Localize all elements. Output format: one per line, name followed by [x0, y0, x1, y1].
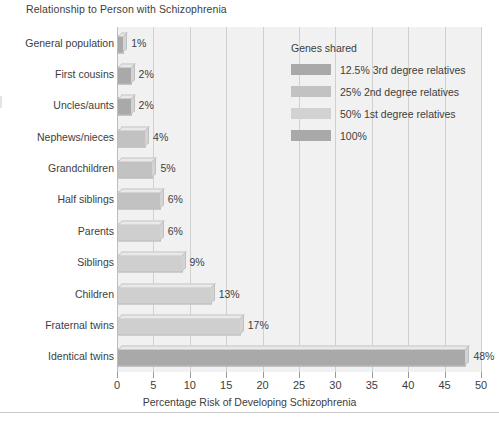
bar-wrapper: [117, 32, 124, 53]
bar-5[interactable]: [117, 192, 161, 210]
bar-wrapper: [117, 95, 132, 116]
x-tick-30: [335, 372, 336, 378]
legend-swatch-3: [291, 130, 331, 141]
legend: Genes shared 12.5% 3rd degree relatives2…: [291, 42, 466, 149]
bar-value-label-9: 17%: [248, 319, 269, 331]
legend-swatch-2: [291, 108, 331, 119]
bar-1[interactable]: [117, 67, 132, 85]
legend-item-3[interactable]: 100%: [291, 127, 466, 144]
bar-value-label-4: 5%: [160, 162, 175, 174]
bar-wrapper: [117, 64, 132, 85]
legend-entries: 12.5% 3rd degree relatives25% 2nd degree…: [291, 61, 466, 144]
category-label-0: General population: [25, 37, 114, 49]
bar-value-label-7: 9%: [190, 256, 205, 268]
x-tick-label-35: 35: [366, 379, 378, 391]
bar-8[interactable]: [117, 286, 212, 304]
chart-title: Relationship to Person with Schizophreni…: [26, 3, 227, 15]
bar-row: Fraternal twins17%: [0, 309, 499, 340]
bar-wrapper: [117, 158, 153, 179]
legend-title: Genes shared: [291, 42, 466, 54]
x-tick-label-5: 5: [150, 379, 156, 391]
x-tick-label-20: 20: [256, 379, 268, 391]
x-tick-label-45: 45: [438, 379, 450, 391]
category-label-10: Identical twins: [48, 350, 114, 362]
bar-value-label-5: 6%: [168, 193, 183, 205]
x-tick-25: [299, 372, 300, 378]
x-tick-label-50: 50: [475, 379, 487, 391]
category-label-6: Parents: [78, 225, 114, 237]
bar-0[interactable]: [117, 35, 124, 53]
bar-wrapper: [117, 314, 241, 335]
x-tick-label-40: 40: [402, 379, 414, 391]
x-tick-0: [117, 372, 118, 378]
bar-row: Identical twins48%: [0, 341, 499, 372]
bar-wrapper: [117, 126, 146, 147]
legend-label-3: 100%: [340, 130, 367, 142]
bar-value-label-8: 13%: [219, 288, 240, 300]
category-label-9: Fraternal twins: [45, 319, 114, 331]
legend-label-2: 50% 1st degree relatives: [340, 108, 456, 120]
bar-row: Grandchildren5%: [0, 152, 499, 183]
x-axis-title: Percentage Risk of Developing Schizophre…: [0, 396, 499, 408]
bar-7[interactable]: [117, 255, 183, 273]
legend-item-0[interactable]: 12.5% 3rd degree relatives: [291, 61, 466, 78]
category-label-5: Half siblings: [57, 193, 114, 205]
category-label-3: Nephews/nieces: [37, 131, 114, 143]
x-tick-20: [263, 372, 264, 378]
bar-value-label-3: 4%: [153, 131, 168, 143]
bar-value-label-2: 2%: [139, 99, 154, 111]
x-tick-35: [372, 372, 373, 378]
legend-swatch-0: [291, 64, 331, 75]
bar-wrapper: [117, 346, 466, 367]
bar-10[interactable]: [117, 349, 466, 367]
bar-wrapper: [117, 220, 161, 241]
bar-4[interactable]: [117, 161, 153, 179]
x-tick-40: [408, 372, 409, 378]
x-tick-label-10: 10: [184, 379, 196, 391]
bar-value-label-10: 48%: [473, 350, 494, 362]
bar-wrapper: [117, 252, 183, 273]
legend-item-1[interactable]: 25% 2nd degree relatives: [291, 83, 466, 100]
x-tick-label-25: 25: [293, 379, 305, 391]
x-tick-10: [190, 372, 191, 378]
x-tick-15: [226, 372, 227, 378]
bar-row: Parents6%: [0, 215, 499, 246]
x-tick-label-15: 15: [220, 379, 232, 391]
bar-2[interactable]: [117, 98, 132, 116]
bar-value-label-6: 6%: [168, 225, 183, 237]
x-tick-label-30: 30: [329, 379, 341, 391]
x-tick-5: [153, 372, 154, 378]
bar-value-label-1: 2%: [139, 68, 154, 80]
bar-6[interactable]: [117, 223, 161, 241]
category-label-4: Grandchildren: [48, 162, 114, 174]
x-tick-label-0: 0: [114, 379, 120, 391]
legend-label-0: 12.5% 3rd degree relatives: [340, 64, 466, 76]
bar-wrapper: [117, 283, 212, 304]
legend-swatch-1: [291, 86, 331, 97]
category-label-7: Siblings: [77, 256, 114, 268]
legend-label-1: 25% 2nd degree relatives: [340, 86, 459, 98]
bar-row: Half siblings6%: [0, 184, 499, 215]
legend-item-2[interactable]: 50% 1st degree relatives: [291, 105, 466, 122]
bar-9[interactable]: [117, 317, 241, 335]
bar-wrapper: [117, 189, 161, 210]
x-tick-45: [445, 372, 446, 378]
x-axis: 05101520253035404550: [117, 372, 481, 394]
bar-row: Siblings9%: [0, 247, 499, 278]
x-tick-50: [481, 372, 482, 378]
category-label-1: First cousins: [55, 68, 114, 80]
category-label-8: Children: [75, 288, 114, 300]
bar-value-label-0: 1%: [131, 37, 146, 49]
bottom-divider: [0, 412, 499, 413]
category-label-2: Uncles/aunts: [53, 99, 114, 111]
bar-3[interactable]: [117, 129, 146, 147]
bar-row: Children13%: [0, 278, 499, 309]
